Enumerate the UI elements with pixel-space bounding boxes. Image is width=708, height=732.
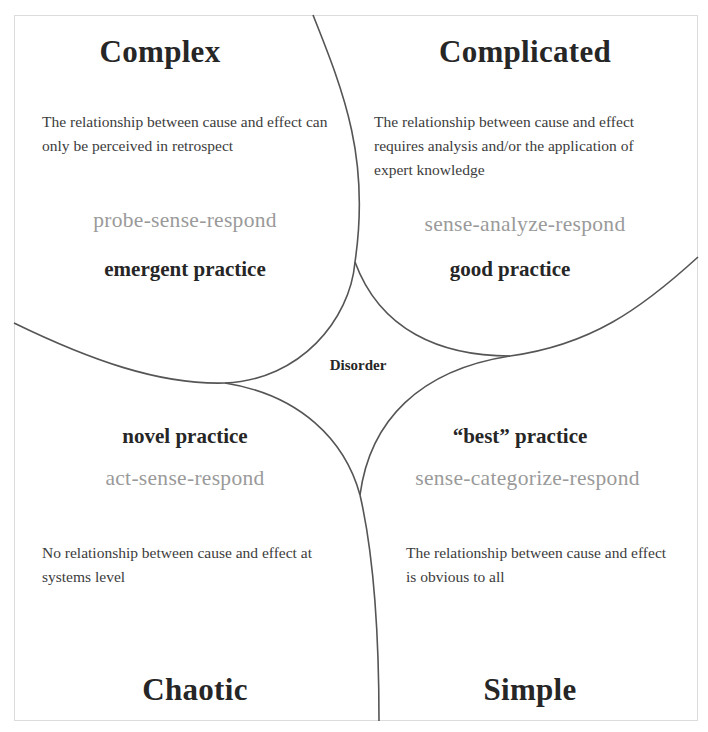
- domain-approach-complicated: sense-analyze-respond: [380, 212, 670, 237]
- domain-approach-simple: sense-categorize-respond: [380, 466, 675, 491]
- domain-practice-chaotic: novel practice: [40, 424, 330, 449]
- domain-approach-complex: probe-sense-respond: [40, 208, 330, 233]
- domain-practice-complicated: good practice: [380, 257, 640, 282]
- domain-approach-chaotic: act-sense-respond: [40, 466, 330, 491]
- domain-description-simple: The relationship between cause and effec…: [406, 541, 676, 589]
- domain-title-complex: Complex: [40, 34, 280, 70]
- domain-title-complicated: Complicated: [380, 34, 670, 70]
- domain-practice-complex: emergent practice: [40, 257, 330, 282]
- cynefin-diagram: Complex The relationship between cause a…: [0, 0, 708, 732]
- domain-title-simple: Simple: [420, 672, 640, 708]
- center-label-disorder: Disorder: [308, 357, 408, 374]
- domain-title-chaotic: Chaotic: [80, 672, 310, 708]
- domain-description-chaotic: No relationship between cause and effect…: [42, 541, 342, 589]
- domain-description-complicated: The relationship between cause and effec…: [374, 110, 674, 182]
- boundary-bottom: [360, 495, 379, 721]
- domain-description-complex: The relationship between cause and effec…: [42, 110, 342, 158]
- domain-practice-simple: “best” practice: [390, 424, 650, 449]
